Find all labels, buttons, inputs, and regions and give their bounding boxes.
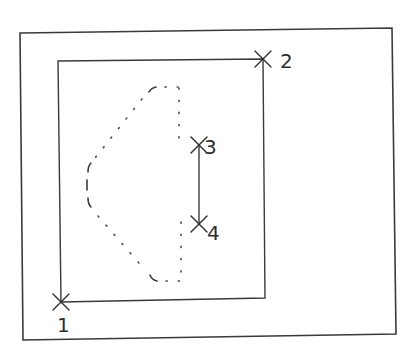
- outer-frame: [20, 28, 396, 340]
- point-4-label: 4: [207, 221, 220, 245]
- dotted-shape: [87, 87, 181, 281]
- point-2-label: 2: [280, 49, 293, 73]
- cad-diagram: 1 2 3 4: [0, 0, 410, 352]
- point-1-label: 1: [57, 313, 70, 337]
- inner-rectangle: [58, 59, 265, 302]
- point-3-label: 3: [204, 135, 217, 159]
